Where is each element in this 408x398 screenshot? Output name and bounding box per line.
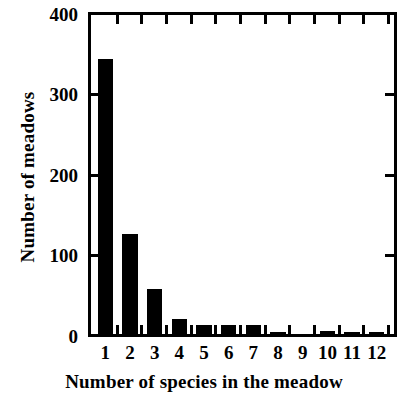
bar-8 [270, 332, 285, 335]
x-axis-top-tick-1 [116, 15, 119, 24]
x-axis-top-tick-2 [140, 15, 143, 24]
bar-7 [246, 325, 261, 334]
x-axis-top-tick-9 [313, 15, 316, 24]
x-tick-label-12: 12 [362, 343, 392, 362]
x-axis-top-tick-5 [214, 15, 217, 24]
bar-5 [196, 325, 211, 334]
x-axis-top-tick-11 [362, 15, 365, 24]
bar-3 [147, 289, 162, 334]
y-tick-label-400: 400 [8, 5, 78, 24]
x-axis-top-tick-8 [288, 15, 291, 24]
bar-1 [98, 59, 113, 334]
x-axis-tick-7 [264, 325, 267, 334]
bar-2 [122, 234, 137, 334]
y-tick-label-200: 200 [8, 166, 78, 185]
x-axis-top-tick-10 [338, 15, 341, 24]
y-tick-label-300: 300 [8, 85, 78, 104]
x-axis-tick-5 [214, 325, 217, 334]
x-axis-top-tick-12 [387, 15, 390, 24]
x-axis-top-tick-3 [165, 15, 168, 24]
y-tick-label-100: 100 [8, 246, 78, 265]
bars-layer [91, 15, 394, 334]
x-axis-tick-3 [165, 325, 168, 334]
y-tick-label-0: 0 [8, 327, 78, 346]
x-axis-tick-9 [313, 325, 316, 334]
x-axis-top-tick-6 [239, 15, 242, 24]
x-axis-top-tick-7 [264, 15, 267, 24]
x-axis-tick-11 [362, 325, 365, 334]
x-axis-tick-10 [338, 325, 341, 334]
x-axis-title: Number of species in the meadow [0, 371, 408, 393]
bar-4 [172, 319, 187, 334]
x-axis-tick-4 [190, 325, 193, 334]
bar-6 [221, 325, 236, 334]
x-axis-top-tick-4 [190, 15, 193, 24]
chart-figure: Number of meadows 0 100 200 300 400 1234… [0, 0, 408, 398]
x-axis-tick-2 [140, 325, 143, 334]
bar-11 [344, 332, 359, 335]
x-axis-tick-6 [239, 325, 242, 334]
bar-12 [369, 332, 384, 335]
x-axis-tick-1 [116, 325, 119, 334]
plot-area [88, 12, 397, 337]
x-axis-tick-8 [288, 325, 291, 334]
x-axis-tick-12 [387, 325, 390, 334]
bar-10 [320, 331, 335, 334]
